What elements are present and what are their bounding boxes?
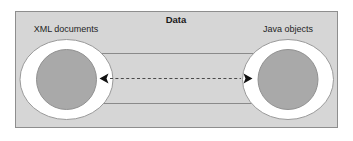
xml-documents-inner-circle <box>37 50 97 110</box>
node-label-java-objects: Java objects <box>263 24 314 34</box>
diagram-title: Data <box>166 14 187 25</box>
java-objects-inner-circle <box>258 50 318 110</box>
diagram-canvas: Data XML documents Java objects <box>0 0 353 141</box>
node-label-xml-documents: XML documents <box>34 24 99 34</box>
